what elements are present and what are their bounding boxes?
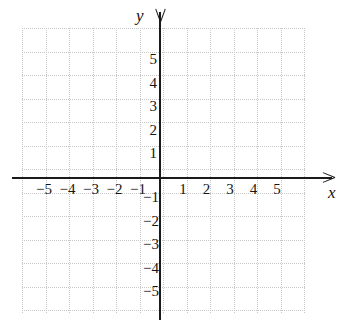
- gridline-vertical: [22, 28, 23, 313]
- x-tick-label-3: 3: [217, 182, 243, 197]
- gridline-vertical: [210, 28, 211, 313]
- y-tick-label-neg3: −3: [129, 237, 159, 252]
- gridline-horizontal: [22, 216, 305, 217]
- x-tick-label-5: 5: [264, 182, 290, 197]
- gridline-vertical: [234, 28, 235, 313]
- x-tick-label-neg5: −5: [31, 182, 57, 197]
- y-tick-label-neg1: −1: [129, 190, 159, 205]
- x-axis-arrow-icon: [322, 171, 334, 183]
- gridline-vertical: [93, 28, 94, 313]
- x-tick-label-2: 2: [194, 182, 220, 197]
- y-tick-label-5: 5: [131, 52, 157, 67]
- y-tick-label-3: 3: [131, 99, 157, 114]
- coordinate-plane-figure: y x −5 −4 −3 −2 −1 1 2 3 4 5 5 4 3 2 1 −…: [0, 0, 345, 327]
- gridline-horizontal: [22, 52, 305, 53]
- x-axis-label: x: [328, 184, 336, 201]
- gridline-horizontal: [22, 75, 305, 76]
- gridline-vertical: [187, 28, 188, 313]
- gridline-horizontal: [22, 263, 305, 264]
- gridline-horizontal: [22, 28, 305, 29]
- gridline-vertical: [116, 28, 117, 313]
- y-axis-arrow-icon: [154, 8, 166, 22]
- gridline-vertical: [304, 28, 305, 313]
- gridline-horizontal: [22, 146, 305, 147]
- y-axis-label: y: [136, 7, 144, 24]
- y-tick-label-4: 4: [131, 76, 157, 91]
- x-tick-label-neg2: −2: [102, 182, 128, 197]
- x-tick-label-neg3: −3: [78, 182, 104, 197]
- gridline-vertical: [69, 28, 70, 313]
- y-tick-label-2: 2: [131, 123, 157, 138]
- y-tick-label-1: 1: [131, 146, 157, 161]
- y-axis-line: [159, 12, 161, 320]
- x-tick-label-1: 1: [170, 182, 196, 197]
- gridline-horizontal: [22, 287, 305, 288]
- y-tick-label-neg2: −2: [129, 214, 159, 229]
- gridline-horizontal: [22, 122, 305, 123]
- y-tick-label-neg4: −4: [129, 261, 159, 276]
- x-axis-line: [12, 177, 332, 179]
- y-tick-label-neg5: −5: [129, 284, 159, 299]
- gridline-vertical: [257, 28, 258, 313]
- grid: [22, 28, 305, 313]
- gridline-horizontal: [22, 99, 305, 100]
- gridline-horizontal: [22, 240, 305, 241]
- gridline-horizontal: [22, 310, 305, 311]
- gridline-vertical: [163, 28, 164, 313]
- x-tick-label-4: 4: [241, 182, 267, 197]
- gridline-vertical: [281, 28, 282, 313]
- gridline-vertical: [46, 28, 47, 313]
- x-tick-label-neg4: −4: [55, 182, 81, 197]
- gridline-horizontal: [22, 169, 305, 170]
